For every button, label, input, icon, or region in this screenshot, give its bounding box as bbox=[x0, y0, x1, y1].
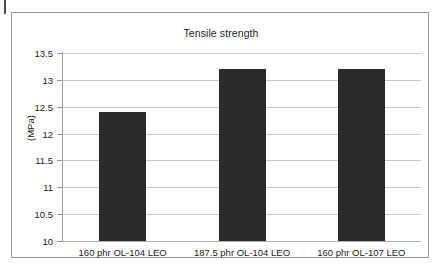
y-axis-tick bbox=[57, 107, 62, 108]
y-axis-tick-label: 12.5 bbox=[13, 101, 55, 112]
x-axis-category-label: 187.5 phr OL-104 LEO bbox=[182, 247, 301, 263]
bar bbox=[219, 69, 266, 241]
gridline bbox=[63, 241, 421, 242]
y-axis-tick-label: 11.5 bbox=[13, 155, 55, 166]
y-axis-tick-label: 13 bbox=[13, 74, 55, 85]
y-axis-tick-label: 11 bbox=[13, 182, 55, 193]
page-edge-mark bbox=[4, 0, 6, 14]
x-axis-category-labels: 160 phr OL-104 LEO187.5 phr OL-104 LEO16… bbox=[63, 247, 421, 263]
y-axis-tick bbox=[57, 160, 62, 161]
x-axis-category-label: 160 phr OL-107 LEO bbox=[302, 247, 421, 263]
chart-title: Tensile strength bbox=[12, 27, 430, 39]
y-axis-tick-labels: 13.51312.51211.51110.510 bbox=[12, 13, 55, 278]
gridline bbox=[63, 53, 421, 54]
bar bbox=[338, 69, 385, 241]
y-axis-tick-label: 10 bbox=[13, 236, 55, 247]
bar bbox=[99, 112, 146, 241]
chart-figure-frame: Tensile strength (MPa) 13.51312.51211.51… bbox=[11, 12, 429, 258]
y-axis-tick bbox=[57, 53, 62, 54]
y-axis-tick-label: 12 bbox=[13, 128, 55, 139]
y-axis-tick bbox=[57, 214, 62, 215]
y-axis-tick bbox=[57, 187, 62, 188]
plot-area bbox=[63, 53, 421, 241]
y-axis-tick bbox=[57, 134, 62, 135]
y-axis-tick-label: 10.5 bbox=[13, 209, 55, 220]
y-axis-tick bbox=[57, 80, 62, 81]
x-axis-category-label: 160 phr OL-104 LEO bbox=[63, 247, 182, 263]
y-axis-tick-label: 13.5 bbox=[13, 48, 55, 59]
y-axis-tick bbox=[57, 241, 62, 242]
